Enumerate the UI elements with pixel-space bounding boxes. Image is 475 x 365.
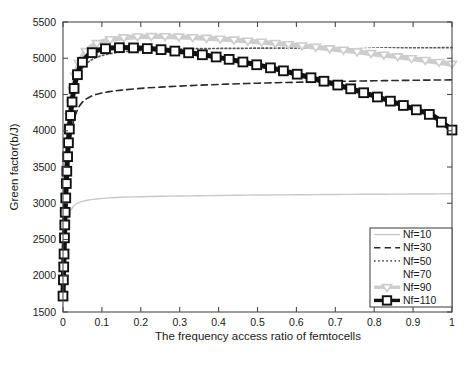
x-tick-label: 0.2 [133,316,148,328]
marker-square [88,48,97,57]
marker-square [115,43,124,52]
y-tick-labels: 150020002500300035004000450050005500 [33,16,57,318]
x-tick-label: 0.1 [95,316,110,328]
legend-label: Nf=70 [403,268,431,280]
x-tick-label: 0.5 [250,316,265,328]
marker-triangle-down [216,36,225,43]
x-tick-label: 0.6 [289,316,304,328]
marker-square [239,58,248,67]
marker-square [61,208,70,217]
y-tick-label: 2000 [33,269,57,281]
marker-triangle-down [174,34,183,41]
marker-triangle-down [161,34,170,41]
y-tick-label: 3000 [33,197,57,209]
marker-triangle-down [353,49,362,56]
marker-square [266,63,275,72]
legend-label: Nf=90 [403,281,431,293]
legend-label: Nf=30 [403,241,431,253]
y-tick-label: 2500 [33,233,57,245]
x-tick-label: 0.7 [328,316,343,328]
marker-square [78,58,87,67]
marker-square [412,105,421,114]
marker-square [320,77,329,86]
marker-triangle-down [133,34,142,41]
marker-square [399,101,408,110]
marker-square [307,73,316,82]
marker-square [60,221,69,230]
marker-triangle-down [311,44,320,51]
marker-square [346,84,355,93]
y-tick-label: 3500 [33,161,57,173]
marker-square [129,44,138,53]
chart-figure: 00.10.20.30.40.50.60.70.80.91 1500200025… [0,0,475,365]
marker-triangle-down [147,34,156,41]
marker-square [252,60,261,69]
marker-square [386,97,395,106]
y-axis-title: Green factor(b/J) [8,123,20,210]
marker-triangle-down [339,47,348,54]
marker-square [157,45,166,54]
legend-marker-square [383,296,391,304]
y-tick-label: 5500 [33,16,57,28]
marker-square [63,152,72,161]
x-tick-label: 1 [449,316,455,328]
x-tick-label: 0.8 [367,316,382,328]
marker-triangle-down [229,37,238,44]
y-tick-label: 1500 [33,306,57,318]
y-tick-label: 5000 [33,52,57,64]
marker-square [184,48,193,57]
marker-square [64,138,73,147]
marker-square [59,263,68,272]
marker-square [225,55,234,64]
marker-square [60,250,69,259]
legend-item-nf-110[interactable]: Nf=110 [374,294,437,306]
marker-square [143,44,152,53]
marker-triangle-down [379,52,388,59]
chart-legend[interactable]: Nf=10Nf=30Nf=50Nf=70Nf=90Nf=110 [370,228,452,307]
x-tick-labels: 00.10.20.30.40.50.60.70.80.91 [60,316,455,328]
y-tick-label: 4000 [33,124,57,136]
marker-square [170,47,179,56]
marker-square [70,84,79,93]
legend-label: Nf=10 [403,228,431,240]
marker-square [425,110,434,119]
marker-square [66,111,75,120]
marker-square [101,44,110,53]
marker-square [373,93,382,102]
marker-square [60,233,69,242]
marker-square [73,70,82,79]
x-tick-label: 0 [60,316,66,328]
marker-square [65,125,74,134]
chart-plot-area: 00.10.20.30.40.50.60.70.80.91 1500200025… [0,0,475,365]
marker-square [437,118,446,127]
marker-triangle-down [393,54,402,61]
marker-square [212,53,221,62]
legend-label: Nf=110 [403,294,437,306]
marker-square [293,70,302,79]
marker-square [68,98,77,107]
marker-triangle-down [366,51,375,58]
y-tick-label: 4500 [33,88,57,100]
x-tick-label: 0.3 [172,316,187,328]
marker-triangle-down [325,46,334,53]
x-axis-title: The frequency access ratio of femtocells [155,330,361,342]
marker-square [198,50,207,59]
marker-triangle-down [188,35,197,42]
marker-triangle-down [271,40,280,47]
marker-triangle-down [119,35,128,42]
marker-square [359,88,368,97]
marker-square [62,167,71,176]
x-tick-label: 0.4 [211,316,226,328]
marker-triangle-down [202,35,211,42]
marker-square [333,81,342,90]
legend-label: Nf=50 [403,255,431,267]
marker-square [279,66,288,75]
x-tick-label: 0.9 [406,316,421,328]
